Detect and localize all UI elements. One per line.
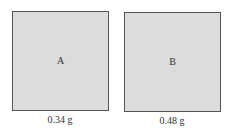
mass-label-b: 0.48 g [142, 115, 202, 127]
sample-box-b: B [124, 12, 221, 112]
mass-label-a: 0.34 g [30, 114, 90, 126]
sample-label-b: B [125, 57, 220, 67]
sample-label-a: A [13, 56, 108, 66]
sample-box-a: A [12, 11, 109, 111]
